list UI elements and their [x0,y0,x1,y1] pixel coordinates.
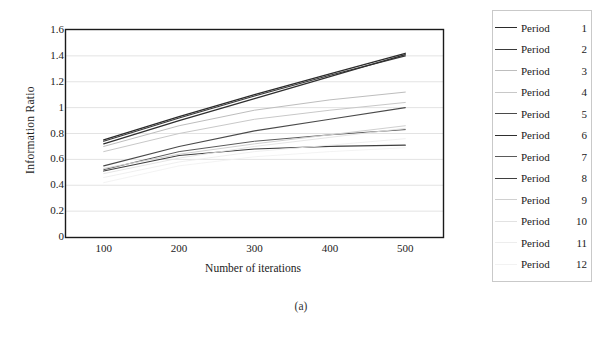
x-tick-200: 200 [159,242,199,254]
legend-series-name: Period [521,65,550,77]
legend-label-period-5: Period5 [521,108,587,120]
legend-series-name: Period [521,22,550,34]
x-tick-400: 400 [310,242,350,254]
legend-swatch-icon [495,27,517,28]
figure-caption: (a) [0,300,602,312]
x-tick-100: 100 [84,242,124,254]
x-tick-500: 500 [385,242,425,254]
legend-label-period-6: Period6 [521,129,587,141]
series-line-period-12 [104,148,406,183]
legend-series-number: 3 [571,65,587,77]
legend-series-name: Period [521,151,550,163]
legend-label-period-4: Period4 [521,86,587,98]
legend-series-name: Period [521,237,550,249]
legend-swatch-icon [495,70,517,71]
legend-series-name: Period [521,194,550,206]
legend-swatch-icon [495,92,517,93]
legend-series-name: Period [521,43,550,55]
legend-swatch-icon [495,156,517,157]
legend-label-period-1: Period1 [521,22,587,34]
legend-item-period-8[interactable]: Period8 [493,168,591,190]
legend-item-period-11[interactable]: Period11 [493,232,591,254]
x-axis-title: Number of iterations [62,262,444,274]
legend-series-name: Period [521,86,550,98]
legend-item-period-10[interactable]: Period10 [493,211,591,233]
legend-series-number: 10 [571,215,587,227]
legend-label-period-12: Period12 [521,258,587,270]
legend-series-name: Period [521,129,550,141]
legend-series-name: Period [521,108,550,120]
legend-series-number: 2 [571,43,587,55]
series-line-period-10 [104,128,406,173]
legend-series-name: Period [521,215,550,227]
legend-series-number: 1 [571,22,587,34]
figure-panel: Information Ratio 00.20.40.60.811.21.41.… [0,0,602,339]
legend-item-period-7[interactable]: Period7 [493,146,591,168]
chart-series-lines [104,53,406,182]
legend-series-name: Period [521,172,550,184]
legend-item-period-12[interactable]: Period12 [493,254,591,276]
legend-series-number: 6 [571,129,587,141]
legend-item-period-4[interactable]: Period4 [493,82,591,104]
legend-label-period-10: Period10 [521,215,587,227]
legend-series-name: Period [521,258,550,270]
legend-swatch-icon [495,221,517,222]
legend-label-period-7: Period7 [521,151,587,163]
legend-swatch-icon [495,264,517,265]
legend-series-number: 8 [571,172,587,184]
legend-swatch-icon [495,199,517,200]
chart-plot-area: Information Ratio 00.20.40.60.811.21.41.… [0,0,470,290]
legend-item-period-5[interactable]: Period5 [493,103,591,125]
legend-label-period-8: Period8 [521,172,587,184]
legend-series-number: 9 [571,194,587,206]
legend-item-period-1[interactable]: Period1 [493,17,591,39]
legend-item-period-6[interactable]: Period6 [493,125,591,147]
legend-series-number: 11 [571,237,587,249]
legend-label-period-2: Period2 [521,43,587,55]
legend-item-period-9[interactable]: Period9 [493,189,591,211]
legend-series-number: 4 [571,86,587,98]
legend-label-period-9: Period9 [521,194,587,206]
legend-label-period-11: Period11 [521,237,587,249]
legend-swatch-icon [495,135,517,136]
legend-item-period-3[interactable]: Period3 [493,60,591,82]
legend-label-period-3: Period3 [521,65,587,77]
legend-swatch-icon [495,242,517,243]
legend-series-number: 5 [571,108,587,120]
series-line-period-8 [104,145,406,171]
legend-swatch-icon [495,113,517,114]
x-tick-300: 300 [235,242,275,254]
chart-legend[interactable]: Period1Period2Period3Period4Period5Perio… [492,10,592,282]
legend-series-number: 7 [571,151,587,163]
legend-series-number: 12 [571,258,587,270]
series-line-period-11 [104,139,406,178]
legend-item-period-2[interactable]: Period2 [493,39,591,61]
legend-swatch-icon [495,178,517,179]
legend-swatch-icon [495,49,517,50]
